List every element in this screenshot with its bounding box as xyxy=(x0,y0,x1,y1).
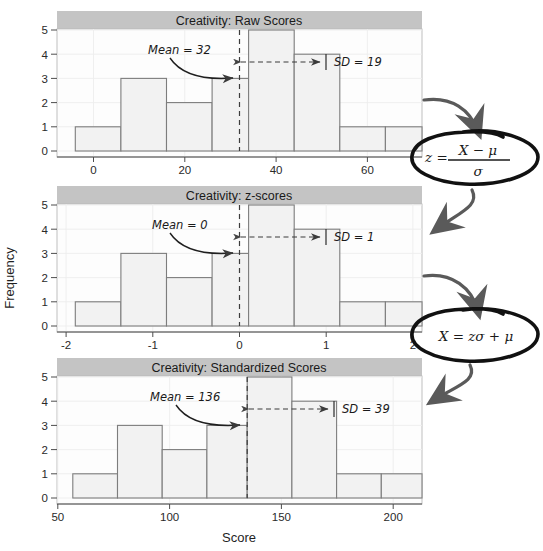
panel-z-scores: Creativity: z-scores 0 1 2 3 4 5 xyxy=(42,186,422,351)
formula-z-numerator: X − μ xyxy=(458,142,498,158)
svg-text:50: 50 xyxy=(51,511,64,523)
mean-label-raw: Mean = 32 xyxy=(148,43,211,57)
svg-text:3: 3 xyxy=(42,73,48,85)
mean-label-z: Mean = 0 xyxy=(152,218,208,232)
panel-title-raw: Creativity: Raw Scores xyxy=(176,14,302,28)
svg-text:0: 0 xyxy=(42,320,48,332)
svg-text:1: 1 xyxy=(323,339,329,351)
bar xyxy=(162,450,207,498)
svg-text:4: 4 xyxy=(42,396,49,408)
bar xyxy=(121,253,167,326)
svg-text:3: 3 xyxy=(42,248,48,260)
bar xyxy=(294,229,340,326)
svg-text:-1: -1 xyxy=(148,339,158,351)
bar xyxy=(249,30,295,151)
bar xyxy=(212,78,249,151)
bar xyxy=(381,474,422,498)
bar xyxy=(212,253,249,326)
panel-title-z: Creativity: z-scores xyxy=(186,189,292,203)
svg-text:4: 4 xyxy=(42,49,49,61)
formula-z-lhs: z = xyxy=(424,149,448,165)
bar xyxy=(73,474,118,498)
panel-raw-scores: Creativity: Raw Scores 0 1 2 3 4 5 xyxy=(42,11,422,176)
svg-text:1: 1 xyxy=(42,121,48,133)
svg-text:2: 2 xyxy=(42,444,48,456)
sd-label-standardized: SD = 39 xyxy=(342,402,390,416)
svg-text:100: 100 xyxy=(160,511,179,523)
svg-text:3: 3 xyxy=(42,420,48,432)
bar xyxy=(340,127,386,151)
bar xyxy=(75,127,121,151)
svg-text:1: 1 xyxy=(42,296,48,308)
three-panel-histogram-figure: Frequency Creativity: Raw Scores 0 1 2 3 xyxy=(0,0,543,551)
svg-text:-2: -2 xyxy=(61,339,71,351)
y-axis-label: Frequency xyxy=(2,247,17,309)
svg-text:20: 20 xyxy=(178,164,191,176)
svg-text:5: 5 xyxy=(42,371,48,383)
svg-text:5: 5 xyxy=(42,24,48,36)
formula-z-denominator: σ xyxy=(473,163,483,179)
bar xyxy=(249,205,295,326)
svg-text:0: 0 xyxy=(42,492,48,504)
bar xyxy=(337,474,382,498)
bar xyxy=(294,54,340,151)
panel-title-standardized: Creativity: Standardized Scores xyxy=(151,361,326,375)
x-axis-label: Score xyxy=(222,530,256,545)
bar xyxy=(340,302,386,326)
bar xyxy=(292,401,337,498)
bar xyxy=(167,103,213,151)
bar xyxy=(75,302,121,326)
formula-x-expression: X = zσ + μ xyxy=(438,328,514,344)
svg-text:0: 0 xyxy=(236,339,242,351)
svg-text:0: 0 xyxy=(90,164,96,176)
sd-label-raw: SD = 19 xyxy=(334,55,382,69)
bar xyxy=(121,78,167,151)
svg-text:2: 2 xyxy=(42,97,48,109)
svg-text:40: 40 xyxy=(270,164,283,176)
bar xyxy=(247,377,292,498)
svg-text:0: 0 xyxy=(42,145,48,157)
svg-text:2: 2 xyxy=(42,272,48,284)
svg-text:5: 5 xyxy=(42,199,48,211)
sd-label-z: SD = 1 xyxy=(334,230,374,244)
bar xyxy=(167,278,213,326)
svg-text:4: 4 xyxy=(42,224,49,236)
svg-text:150: 150 xyxy=(272,511,291,523)
bar xyxy=(207,425,247,498)
mean-label-standardized: Mean = 136 xyxy=(150,390,220,404)
svg-text:60: 60 xyxy=(361,164,374,176)
svg-text:200: 200 xyxy=(384,511,403,523)
svg-text:1: 1 xyxy=(42,468,48,480)
bar xyxy=(118,425,163,498)
